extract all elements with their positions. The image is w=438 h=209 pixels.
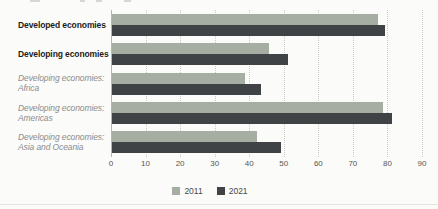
- bar-2021-category-3: [112, 113, 392, 124]
- legend-swatch-2021-icon: [217, 187, 225, 195]
- bar-2021-category-1: [112, 54, 288, 65]
- x-axis-tick-label-90: 90: [412, 159, 432, 168]
- category-label-2: Developing economies:Africa: [18, 69, 110, 98]
- category-label-4: Developing economies:Asia and Oceania: [18, 128, 110, 157]
- category-label-3: Developing economies:Americas: [18, 98, 110, 127]
- x-axis-tick-label-0: 0: [101, 159, 121, 168]
- x-axis-tick-label-50: 50: [274, 159, 294, 168]
- bar-2011-category-4: [112, 131, 257, 142]
- bar-2011-category-0: [112, 14, 378, 25]
- legend-item-2011: 2011: [172, 186, 202, 196]
- x-axis-tick-label-80: 80: [377, 159, 397, 168]
- bar-2021-category-4: [112, 142, 281, 153]
- clipped-title-fragment: [28, 0, 148, 2]
- chart-legend: 2011 2021: [0, 186, 429, 196]
- grouped-bar-chart-panel: Developed economiesDeveloping economiesD…: [0, 0, 438, 209]
- x-axis-tick-label-20: 20: [170, 159, 190, 168]
- legend-swatch-2011-icon: [172, 187, 180, 195]
- x-axis-tick-label-40: 40: [239, 159, 259, 168]
- gridline-90: [422, 10, 423, 157]
- category-label-0: Developed economies: [18, 10, 110, 39]
- bar-2011-category-2: [112, 73, 245, 84]
- bar-2021-category-0: [112, 25, 385, 36]
- category-label-1: Developing economies: [18, 39, 110, 68]
- gridline-80: [387, 10, 388, 157]
- x-axis-tick-label-70: 70: [343, 159, 363, 168]
- bar-2011-category-1: [112, 43, 269, 54]
- legend-label-2021: 2021: [229, 186, 248, 196]
- bar-2021-category-2: [112, 84, 261, 95]
- legend-label-2011: 2011: [184, 186, 202, 196]
- x-axis-tick-label-30: 30: [205, 159, 225, 168]
- bottom-divider: [0, 204, 438, 205]
- x-axis-tick-label-10: 10: [136, 159, 156, 168]
- legend-item-2021: 2021: [217, 186, 248, 196]
- bar-2011-category-3: [112, 102, 383, 113]
- x-axis-tick-label-60: 60: [308, 159, 328, 168]
